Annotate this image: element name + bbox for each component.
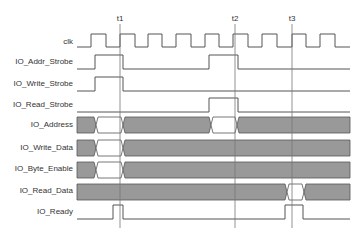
io-ready-waveform xyxy=(77,205,350,219)
waveforms xyxy=(0,0,364,235)
io-read-strobe-waveform xyxy=(77,98,350,112)
io-addr-strobe-waveform xyxy=(77,55,350,69)
io-write-data-bus xyxy=(77,140,350,156)
io-byte-enable-bus xyxy=(77,162,350,178)
io-read-data-bus xyxy=(77,184,350,200)
io-write-strobe-waveform xyxy=(77,77,350,91)
clk-waveform xyxy=(77,34,350,47)
io-address-bus xyxy=(77,117,350,133)
timing-diagram: t1 t2 t3 clk IO_Addr_Strobe IO_Write_Str… xyxy=(0,0,364,235)
